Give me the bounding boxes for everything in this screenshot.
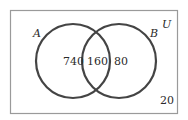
- region-a-only-value: 740: [63, 55, 84, 68]
- universe-label: U: [162, 18, 172, 31]
- set-b-label: B: [149, 27, 158, 40]
- venn-diagram: U A B 740 160 80 20: [0, 0, 188, 120]
- region-outside-value: 20: [160, 94, 174, 107]
- region-b-only-value: 80: [114, 55, 128, 68]
- set-a-label: A: [32, 27, 41, 40]
- region-a-and-b-value: 160: [87, 55, 108, 68]
